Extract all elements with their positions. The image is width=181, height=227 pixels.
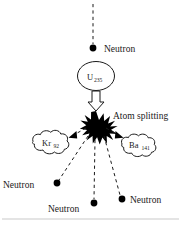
emitted-neutron-label-center: Neutron — [48, 204, 79, 214]
barium-arrowhead-icon — [115, 131, 124, 139]
emitted-neutron-label-right: Neutron — [130, 195, 161, 205]
fission-diagram: Neutron U 235 Atom splitting Kr 92 Ba 14… — [0, 0, 181, 227]
barium-mass-number-label: 141 — [142, 145, 151, 151]
emitted-neutron-dot-center — [91, 200, 98, 207]
fission-process-arrow-icon — [88, 91, 104, 111]
krypton-mass-number-label: 92 — [54, 143, 60, 149]
atom-splitting-starburst-icon — [80, 111, 118, 144]
incoming-neutron-dot — [90, 45, 97, 52]
barium-fragment-cloud — [122, 134, 156, 156]
emitted-neutron-label-left: Neutron — [3, 180, 34, 190]
barium-element-label: Ba — [129, 140, 139, 150]
incoming-neutron-label: Neutron — [104, 44, 135, 54]
krypton-arrowhead-icon — [69, 131, 78, 139]
emitted-neutron-dot-right — [119, 196, 126, 203]
emitted-neutron-path-center — [94, 140, 95, 199]
uranium-mass-number-label: 235 — [94, 77, 103, 83]
uranium-element-label: U — [87, 72, 93, 82]
fission-canvas: Neutron U 235 Atom splitting Kr 92 Ba 14… — [0, 0, 181, 227]
emitted-neutron-dot-left — [54, 180, 61, 187]
atom-splitting-label: Atom splitting — [113, 111, 168, 121]
krypton-element-label: Kr — [42, 138, 51, 148]
emitted-neutron-path-right — [104, 136, 120, 195]
